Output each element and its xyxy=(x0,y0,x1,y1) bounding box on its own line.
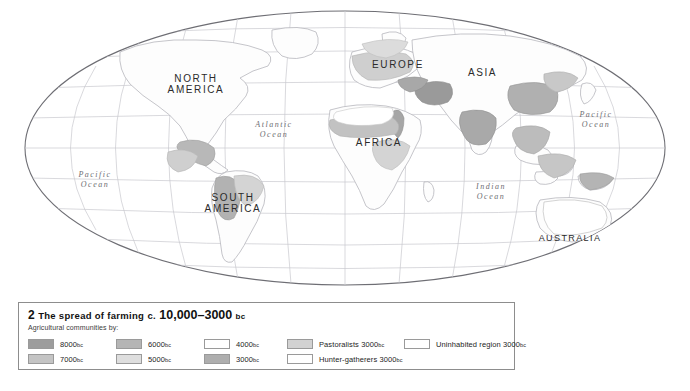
legend-label-4000bc: 4000bc xyxy=(236,340,259,349)
legend-label-3000bc: 3000bc xyxy=(236,355,259,364)
legend-item-uninhabited[interactable]: Uninhabited region 3000bc xyxy=(404,339,526,349)
legend-item-8000bc[interactable]: 8000bc xyxy=(28,339,83,349)
legend-label-hunter-gatherers: Hunter-gatherers 3000bc xyxy=(319,355,403,364)
legend-swatch-7000bc xyxy=(28,354,54,364)
legend-label-6000bc: 6000bc xyxy=(148,340,171,349)
legend-label-pastoralists: Pastoralists 3000bc xyxy=(319,340,384,349)
legend-swatch-3000bc xyxy=(204,354,230,364)
legend-title-era: bc xyxy=(236,312,246,321)
map-canvas xyxy=(0,0,690,300)
map-page: NORTH AMERICA SOUTH AMERICA EUROPE ASIA … xyxy=(0,0,690,391)
legend-title: 2 The spread of farming c. 10,000–3000 b… xyxy=(28,308,245,322)
region-australia-hunter-gatherers xyxy=(543,200,607,235)
legend-title-text: The spread of farming xyxy=(38,310,144,321)
legend-item-pastoralists[interactable]: Pastoralists 3000bc xyxy=(287,339,384,349)
legend-label-8000bc: 8000bc xyxy=(60,340,83,349)
legend-label-5000bc: 5000bc xyxy=(148,355,171,364)
legend-swatch-5000bc xyxy=(116,354,142,364)
legend-swatch-6000bc xyxy=(116,339,142,349)
legend-label-uninhabited: Uninhabited region 3000bc xyxy=(436,340,526,349)
world-map: NORTH AMERICA SOUTH AMERICA EUROPE ASIA … xyxy=(0,0,690,300)
legend-item-6000bc[interactable]: 6000bc xyxy=(116,339,171,349)
legend-label-7000bc: 7000bc xyxy=(60,355,83,364)
legend-item-5000bc[interactable]: 5000bc xyxy=(116,354,171,364)
legend-title-circa: c. xyxy=(147,310,156,321)
legend-title-range: 10,000–3000 xyxy=(159,308,232,322)
map-legend: 2 The spread of farming c. 10,000–3000 b… xyxy=(18,302,515,370)
legend-swatch-4000bc xyxy=(204,339,230,349)
legend-item-hunter-gatherers[interactable]: Hunter-gatherers 3000bc xyxy=(287,354,403,364)
legend-subtitle: Agricultural communities by: xyxy=(28,324,118,331)
legend-swatch-pastoralists xyxy=(287,339,313,349)
legend-number: 2 xyxy=(28,308,35,322)
legend-swatch-hunter-gatherers xyxy=(287,354,313,364)
legend-item-7000bc[interactable]: 7000bc xyxy=(28,354,83,364)
legend-item-3000bc[interactable]: 3000bc xyxy=(204,354,259,364)
legend-item-4000bc[interactable]: 4000bc xyxy=(204,339,259,349)
legend-swatch-8000bc xyxy=(28,339,54,349)
legend-swatch-uninhabited xyxy=(404,339,430,349)
